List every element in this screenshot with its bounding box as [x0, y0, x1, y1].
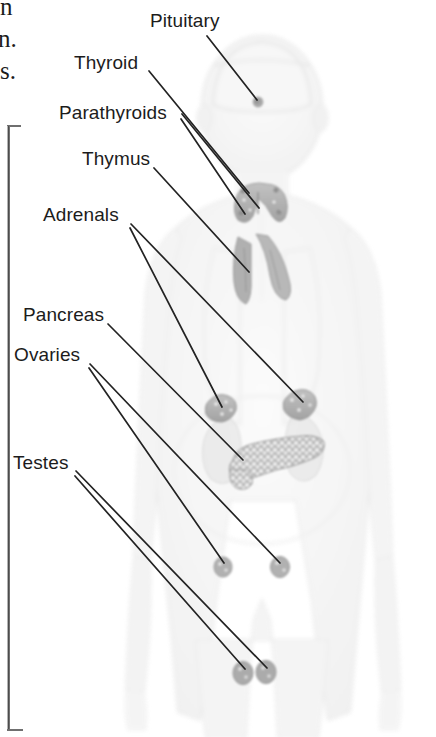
organ-label-thyroid: Thyroid: [74, 53, 138, 72]
endocrine-system-diagram: n n. s.: [0, 0, 436, 737]
organ-label-parathyroids: Parathyroids: [59, 103, 167, 122]
organ-label-ovaries: Ovaries: [14, 345, 80, 364]
testis-right: [256, 661, 276, 684]
ovary-left: [214, 557, 232, 577]
organ-label-adrenals: Adrenals: [43, 205, 119, 224]
organ-label-pancreas: Pancreas: [23, 305, 104, 324]
pituitary-gland: [253, 97, 264, 108]
ovary-right: [271, 557, 290, 578]
organ-label-pituitary: Pituitary: [150, 11, 220, 30]
organ-label-testes: Testes: [13, 453, 69, 472]
testis-left: [233, 662, 253, 685]
organ-label-thymus: Thymus: [82, 149, 150, 168]
body-silhouette: [125, 36, 400, 737]
